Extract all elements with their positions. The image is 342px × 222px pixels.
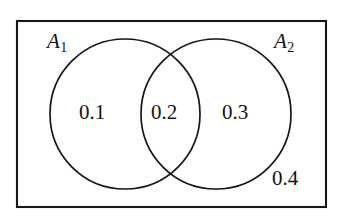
set-label-a2: A2 [274, 31, 294, 55]
region-value-a2-only: 0.3 [222, 102, 248, 123]
venn-diagram-figure: A1 A2 0.1 0.2 0.3 0.4 [0, 0, 342, 222]
region-value-intersection: 0.2 [151, 102, 177, 123]
region-value-outside: 0.4 [272, 168, 298, 189]
set-label-a2-letter: A [274, 29, 287, 53]
set-label-a1-subscript: 1 [60, 40, 68, 55]
region-value-a1-only: 0.1 [79, 102, 105, 123]
set-label-a1: A1 [47, 31, 67, 55]
set-label-a2-subscript: 2 [287, 40, 295, 55]
set-label-a1-letter: A [47, 29, 60, 53]
